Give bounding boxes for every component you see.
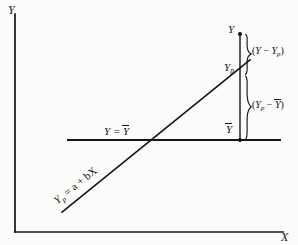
residual-minus-sign: − — [261, 45, 272, 56]
mean-y-label: Y — [226, 124, 232, 135]
axis-label-x: X — [281, 231, 288, 243]
mean-y-point-marker — [238, 138, 242, 142]
explained-brace-label: (Yp − Y) — [252, 100, 284, 112]
predicted-y-label-subscript: p — [230, 66, 234, 75]
explained-brace-icon — [246, 76, 252, 140]
explained-close-paren: ) — [281, 99, 284, 110]
mean-line-label: Y = Y — [104, 126, 129, 137]
mean-line-label-mean: Y — [123, 126, 129, 137]
mean-y-label-base: Y — [226, 124, 232, 135]
axis-label-y: Y — [8, 4, 15, 16]
residual-brace-label: (Y − Yp) — [252, 46, 284, 58]
regression-line — [62, 60, 250, 212]
regression-decomposition-figure: Y X Y = Y Y Yp Y (Y − Yp) (Yp − Y) Yp = … — [0, 0, 298, 245]
predicted-y-label: Yp — [224, 62, 234, 75]
observed-y-label: Y — [228, 24, 234, 35]
observed-y-point-marker — [238, 32, 242, 36]
explained-minus-sign: − — [264, 99, 275, 110]
mean-line-label-equals: = — [110, 125, 123, 137]
explained-term-b: Y — [275, 100, 281, 110]
figure-canvas — [0, 0, 298, 245]
residual-close-paren: ) — [281, 45, 284, 56]
residual-brace-icon — [246, 35, 252, 75]
